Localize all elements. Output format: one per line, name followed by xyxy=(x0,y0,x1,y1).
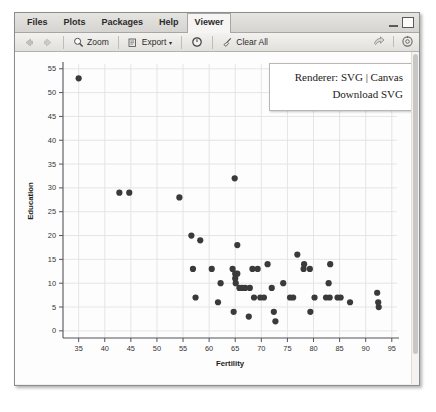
svg-text:5: 5 xyxy=(52,303,56,312)
maximize-icon[interactable] xyxy=(402,17,414,28)
svg-text:95: 95 xyxy=(388,344,396,353)
zoom-button[interactable]: Zoom xyxy=(70,36,112,49)
screenshot-root: Files Plots Packages Help Viewer xyxy=(0,0,436,412)
renderer-option-svg[interactable]: SVG xyxy=(341,71,363,83)
toolbar-separator xyxy=(118,36,119,49)
zoom-label: Zoom xyxy=(87,37,109,47)
renderer-prefix-label: Renderer: xyxy=(295,71,338,83)
tab-help[interactable]: Help xyxy=(151,14,187,32)
svg-text:30: 30 xyxy=(48,183,56,192)
clear-all-button[interactable]: Clear All xyxy=(219,36,271,49)
toolbar-separator xyxy=(393,36,394,47)
vertical-scrollbar[interactable] xyxy=(411,52,419,384)
magnifier-icon xyxy=(73,37,84,48)
refresh-icon xyxy=(191,36,203,48)
publish-icon[interactable] xyxy=(373,35,386,48)
renderer-option-canvas[interactable]: Canvas xyxy=(371,71,403,83)
tab-files[interactable]: Files xyxy=(19,14,56,32)
minimize-icon[interactable] xyxy=(389,18,398,27)
toolbar-separator xyxy=(63,36,64,49)
forward-button[interactable] xyxy=(40,36,57,49)
svg-text:45: 45 xyxy=(127,344,135,353)
svg-text:50: 50 xyxy=(153,344,161,353)
toolbar-separator xyxy=(181,36,182,49)
svg-text:40: 40 xyxy=(48,136,56,145)
download-svg-link[interactable]: Download SVG xyxy=(332,88,403,100)
toolbar-separator xyxy=(212,36,213,49)
svg-text:60: 60 xyxy=(205,344,213,353)
svg-text:0: 0 xyxy=(52,326,56,335)
svg-text:15: 15 xyxy=(48,255,56,264)
viewer-content: 0510152025303540455055354045505560657075… xyxy=(15,52,419,384)
svg-text:80: 80 xyxy=(309,344,317,353)
viewer-window: Files Plots Packages Help Viewer xyxy=(14,12,420,386)
back-button[interactable] xyxy=(20,36,37,49)
tab-plots[interactable]: Plots xyxy=(56,14,94,32)
download-row: Download SVG xyxy=(279,86,403,103)
svg-text:20: 20 xyxy=(48,231,56,240)
svg-text:25: 25 xyxy=(48,207,56,216)
scrollbar-thumb[interactable] xyxy=(413,54,418,354)
window-controls xyxy=(389,17,414,28)
svg-text:55: 55 xyxy=(179,344,187,353)
export-button[interactable]: Export ▾ xyxy=(125,36,176,49)
settings-icon[interactable] xyxy=(401,35,414,48)
clear-all-label: Clear All xyxy=(236,37,268,47)
tab-viewer[interactable]: Viewer xyxy=(187,13,232,33)
broom-icon xyxy=(222,37,233,48)
svg-text:50: 50 xyxy=(48,88,56,97)
viewer-toolbar: Zoom Export ▾ xyxy=(15,33,419,52)
renderer-separator: | xyxy=(366,71,368,83)
renderer-panel: Renderer: SVG | Canvas Download SVG xyxy=(269,63,413,111)
svg-text:65: 65 xyxy=(231,344,239,353)
export-icon xyxy=(128,37,139,48)
svg-text:85: 85 xyxy=(335,344,343,353)
pane-tab-bar: Files Plots Packages Help Viewer xyxy=(15,13,419,33)
svg-text:40: 40 xyxy=(101,344,109,353)
svg-text:75: 75 xyxy=(283,344,291,353)
chevron-down-icon: ▾ xyxy=(169,39,172,46)
svg-text:10: 10 xyxy=(48,279,56,288)
svg-text:35: 35 xyxy=(75,344,83,353)
svg-text:35: 35 xyxy=(48,160,56,169)
svg-text:70: 70 xyxy=(257,344,265,353)
svg-text:90: 90 xyxy=(362,344,370,353)
svg-text:Fertility: Fertility xyxy=(216,359,245,368)
svg-text:Education: Education xyxy=(26,182,35,220)
svg-text:45: 45 xyxy=(48,112,56,121)
export-label: Export xyxy=(142,37,167,47)
toolbar-right-group xyxy=(373,35,414,48)
svg-text:55: 55 xyxy=(48,64,56,73)
forward-arrow-icon xyxy=(43,37,54,48)
refresh-button[interactable] xyxy=(188,35,206,49)
tab-packages[interactable]: Packages xyxy=(94,14,152,32)
back-arrow-icon xyxy=(23,37,34,48)
renderer-row: Renderer: SVG | Canvas xyxy=(279,69,403,86)
